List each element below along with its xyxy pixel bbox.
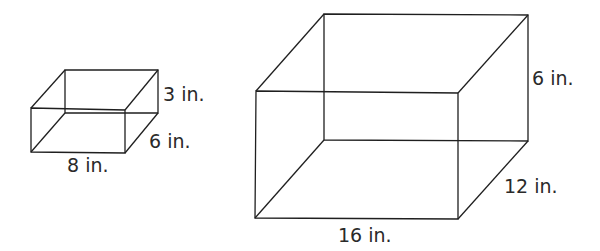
diagram-canvas: 3 in. 6 in. 8 in. 6 in. 12 in. 16 in. — [0, 0, 600, 251]
small-prism-width-label: 8 in. — [67, 154, 109, 176]
large-prism-back-face — [324, 14, 528, 141]
large-prism-front-face — [255, 91, 458, 219]
small-prism-front-face — [31, 108, 125, 153]
small-prism-edge — [125, 70, 158, 110]
large-prism-edge — [458, 15, 528, 93]
large-prism-depth-label: 12 in. — [504, 175, 558, 197]
large-prism-edge — [255, 140, 324, 218]
small-prism: 3 in. 6 in. 8 in. — [31, 70, 205, 176]
small-prism-height-label: 3 in. — [163, 83, 205, 105]
large-prism-edge — [256, 14, 324, 91]
small-prism-back-face — [65, 70, 158, 113]
small-prism-edge — [31, 113, 65, 152]
large-prism: 6 in. 12 in. 16 in. — [255, 14, 574, 246]
small-prism-edge — [31, 70, 65, 108]
large-prism-width-label: 16 in. — [338, 224, 392, 246]
small-prism-depth-label: 6 in. — [149, 130, 191, 152]
large-prism-height-label: 6 in. — [532, 67, 574, 89]
